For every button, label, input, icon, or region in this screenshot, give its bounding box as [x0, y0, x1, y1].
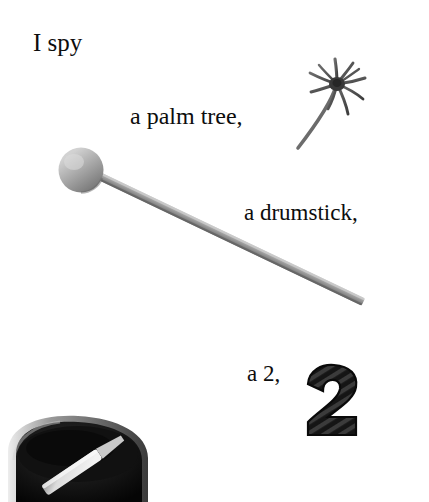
paint-bucket-object [0, 406, 172, 502]
drumstick-object [52, 138, 382, 333]
numeral-two-icon [300, 362, 362, 442]
numeral-two-object [300, 362, 362, 442]
drumstick-icon [52, 138, 382, 333]
caption-two: a 2, [247, 362, 280, 385]
paint-bucket-icon [0, 406, 172, 502]
palm-tree-icon [292, 52, 392, 152]
caption-palm-tree: a palm tree, [130, 104, 243, 128]
palm-tree-object [292, 52, 392, 152]
i-spy-page: I spy a palm tree, a drumstick, a 2, [0, 0, 429, 502]
caption-intro: I spy [33, 30, 82, 55]
